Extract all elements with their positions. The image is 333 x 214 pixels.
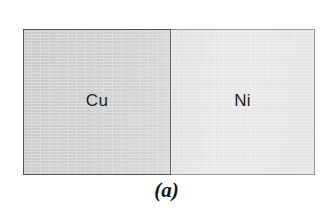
material-block-cu: Cu: [23, 29, 171, 175]
figure-part-caption: (a): [0, 180, 333, 201]
figure-root: Cu Ni (a): [0, 0, 333, 214]
material-label-ni: Ni: [234, 92, 251, 109]
diffusion-couple-diagram: Cu Ni: [23, 29, 315, 175]
material-label-cu: Cu: [86, 92, 108, 109]
material-block-ni: Ni: [171, 29, 315, 175]
